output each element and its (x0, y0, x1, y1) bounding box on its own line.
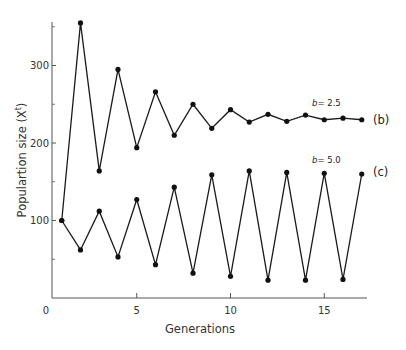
data-point (115, 254, 120, 259)
data-point (172, 185, 177, 190)
series-layer (59, 20, 364, 283)
param-label-b: b= 2.5 (312, 98, 341, 108)
x-ticks: 051015 (43, 293, 331, 316)
param-label-c: b= 5.0 (312, 155, 341, 165)
y-axis-title-main: Populartion size (X (15, 110, 29, 217)
y-tick-label: 100 (30, 215, 49, 226)
series-c (59, 168, 364, 282)
data-point (340, 116, 345, 121)
data-point (247, 168, 252, 173)
data-point (97, 209, 102, 214)
data-point (303, 113, 308, 118)
x-tick-label: 0 (43, 305, 49, 316)
data-point (134, 145, 139, 150)
population-chart: 051015 100200300 Generations Populartion… (0, 0, 406, 350)
y-tick-label: 300 (30, 60, 49, 71)
data-point (284, 170, 289, 175)
data-point (78, 247, 83, 252)
series-label-b: (b) (373, 113, 389, 127)
data-point (247, 119, 252, 124)
data-point (209, 126, 214, 131)
data-point (303, 278, 308, 283)
data-point (153, 262, 158, 267)
x-tick-label: 15 (318, 305, 331, 316)
series-label-c: (c) (373, 165, 388, 179)
data-point (359, 117, 364, 122)
y-axis-title-suffix: ) (15, 103, 29, 108)
data-point (134, 197, 139, 202)
y-axis-title: Populartion size (Xt) (14, 103, 29, 218)
param-value-c: = 5.0 (317, 155, 340, 165)
axes: 051015 100200300 (30, 22, 367, 316)
series-b (59, 20, 364, 223)
data-point (190, 102, 195, 107)
series-line (62, 23, 362, 221)
data-point (265, 112, 270, 117)
data-point (59, 218, 64, 223)
x-axis-title: Generations (165, 322, 235, 336)
param-value-b: = 2.5 (317, 98, 340, 108)
series-line (62, 171, 362, 280)
data-point (228, 274, 233, 279)
data-point (153, 89, 158, 94)
data-point (265, 278, 270, 283)
data-point (322, 171, 327, 176)
data-point (190, 271, 195, 276)
data-point (209, 172, 214, 177)
data-point (115, 67, 120, 72)
y-tick-label: 200 (30, 138, 49, 149)
data-point (284, 119, 289, 124)
x-tick-label: 5 (134, 305, 140, 316)
data-point (340, 277, 345, 282)
x-tick-label: 10 (224, 305, 237, 316)
data-point (322, 117, 327, 122)
data-point (359, 171, 364, 176)
data-point (228, 107, 233, 112)
data-point (97, 168, 102, 173)
data-point (78, 20, 83, 25)
data-point (172, 133, 177, 138)
